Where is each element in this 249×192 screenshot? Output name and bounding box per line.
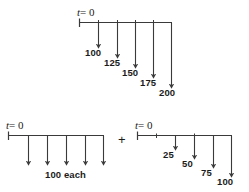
cashflow-value-200: 200 bbox=[159, 88, 175, 98]
time-zero-label-annuity: t= 0 bbox=[6, 120, 24, 131]
gradient-value-50: 50 bbox=[182, 159, 193, 169]
cashflow-value-125: 125 bbox=[104, 58, 120, 68]
timeline-graphics bbox=[0, 0, 249, 192]
gradient-value-75: 75 bbox=[201, 168, 212, 178]
time-zero-label-gradient: t= 0 bbox=[135, 120, 153, 131]
diagram-level-annuity bbox=[8, 132, 104, 163]
time-zero-label-combined: t= 0 bbox=[77, 7, 95, 18]
time-equals-zero: = 0 bbox=[80, 6, 94, 18]
gradient-value-25: 25 bbox=[163, 150, 174, 160]
annuity-caption: 100 each bbox=[45, 170, 86, 180]
time-equals-zero: = 0 bbox=[9, 119, 23, 131]
cash-flow-figure: t= 0 100 125 150 175 200 t= 0 100 each +… bbox=[0, 0, 249, 192]
cashflow-value-175: 175 bbox=[140, 78, 156, 88]
cashflow-value-100: 100 bbox=[85, 48, 101, 58]
gradient-value-100: 100 bbox=[217, 177, 233, 187]
cashflow-value-150: 150 bbox=[122, 68, 138, 78]
plus-operator-icon: + bbox=[118, 133, 126, 146]
time-equals-zero: = 0 bbox=[138, 119, 152, 131]
